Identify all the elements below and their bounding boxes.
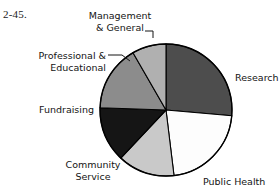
figure-container: 2-45. Research Public Health Community S…: [0, 0, 280, 191]
pie-slice-research[interactable]: [166, 44, 232, 116]
pie-label-fundraising: Fundraising: [32, 104, 94, 116]
pie-label-fundraising-text: Fundraising: [39, 104, 94, 115]
pie-slice-public-health[interactable]: [166, 110, 232, 176]
pie-label-management-general-line2: & General: [84, 22, 156, 34]
pie-label-research-text: Research: [235, 72, 279, 83]
pie-label-management-general: Management & General: [84, 10, 156, 33]
pie-label-professional-educational: Professional & Educational: [14, 50, 106, 73]
pie-label-community-service-line2: Service: [62, 171, 124, 183]
pie-label-community-service: Community Service: [62, 159, 124, 182]
pie-label-professional-educational-line1: Professional &: [14, 50, 106, 62]
pie-label-management-general-line1: Management: [84, 10, 156, 22]
pie-label-community-service-line1: Community: [62, 159, 124, 171]
pie-label-research: Research: [235, 72, 279, 84]
pie-label-public-health: Public Health: [203, 176, 265, 188]
pie-label-public-health-text: Public Health: [203, 176, 265, 187]
pie-label-professional-educational-line2: Educational: [14, 62, 106, 74]
